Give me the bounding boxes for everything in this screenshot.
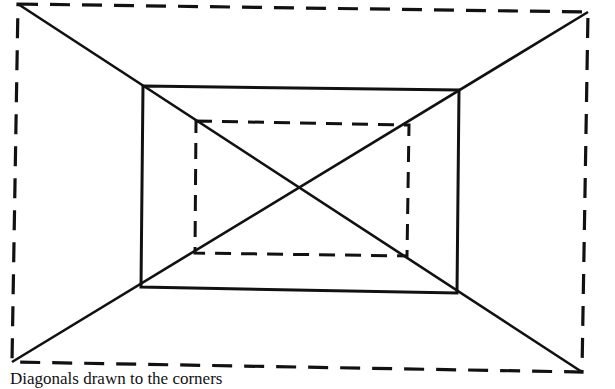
diagonal-top-right-to-bottom-left [12, 12, 588, 362]
figure-caption: Diagonals drawn to the corners [10, 369, 222, 389]
